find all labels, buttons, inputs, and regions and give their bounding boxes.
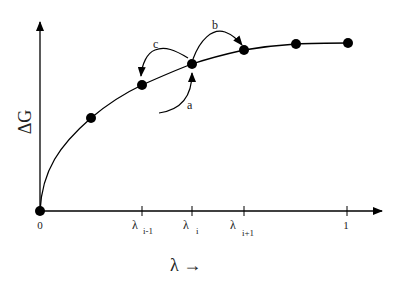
arrow-b [193,31,242,59]
arrow-a-label: a [187,98,193,112]
y-axis-label: ΔG [15,110,35,135]
tick-label-lambda-i-1-sub: i-1 [143,226,153,236]
tick-label-1: 1 [343,219,349,231]
free-energy-diagram: a b c ΔG 0 λ i-1 λ i λ i+1 1 λ → [0,0,396,289]
arrow-b-label: b [212,18,218,32]
arrow-c [141,48,188,76]
arrow-c-label: c [153,37,158,51]
tick-label-lambda-i: λ [183,218,189,232]
tick-label-lambda-i+1: λ [230,218,236,232]
tick-label-0: 0 [37,219,43,231]
tick-label-lambda-i+1-sub: i+1 [242,228,254,238]
lambda-points [35,38,353,216]
tick-label-lambda-i-1: λ [132,218,138,232]
x-axis-label: λ → [170,255,201,275]
tick-label-lambda-i-sub: i [196,226,199,236]
